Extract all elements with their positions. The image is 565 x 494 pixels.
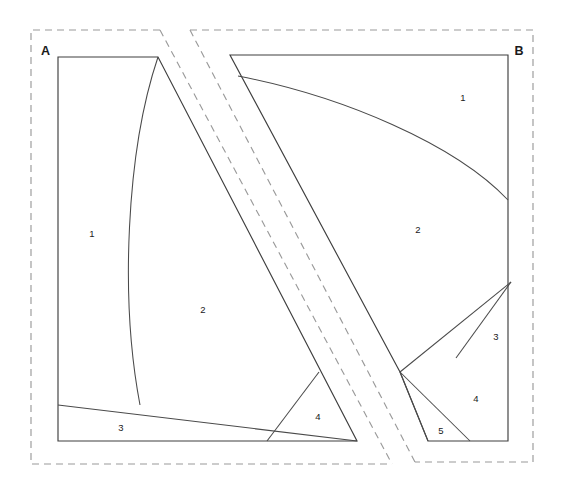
panel-a-geometry xyxy=(58,57,357,441)
panel-a-region-label-3: 3 xyxy=(118,422,123,433)
diagram-svg: A B 1 2 3 4 1 2 3 4 5 xyxy=(0,0,565,494)
panel-label-b: B xyxy=(514,44,523,58)
panel-b-region-label-2: 2 xyxy=(415,224,420,235)
panel-b-region-label-1: 1 xyxy=(460,92,465,103)
dashed-diagonal-left xyxy=(160,30,392,464)
panel-a-outline xyxy=(58,57,357,441)
panel-b-region-label-3: 3 xyxy=(493,331,498,342)
dashed-diagonal-right xyxy=(190,30,415,462)
panel-a-boundary-3-top xyxy=(58,405,357,441)
panel-a-dashed-boundary xyxy=(31,30,392,464)
panel-label-a: A xyxy=(41,44,50,58)
panel-a-region-label-1: 1 xyxy=(89,228,94,239)
panel-b-boundary-2-lower xyxy=(400,282,511,372)
panel-a-boundary-region-4 xyxy=(267,372,319,441)
panel-a-region-label-4: 4 xyxy=(315,411,320,422)
panel-b-boundary-4-5 xyxy=(400,372,470,441)
panel-a-boundary-1-2 xyxy=(128,57,158,405)
panel-b-region-label-5: 5 xyxy=(438,425,443,436)
panel-b-geometry xyxy=(230,55,511,441)
panel-b-boundary-5-bottom xyxy=(400,372,428,441)
panel-b-boundary-1-2 xyxy=(238,76,508,200)
panel-b-outline xyxy=(230,55,508,441)
figure-canvas: A B 1 2 3 4 1 2 3 4 5 xyxy=(0,0,565,494)
panel-a-region-label-2: 2 xyxy=(200,304,205,315)
panel-b-dashed-boundary xyxy=(190,30,533,462)
panel-b-region-label-4: 4 xyxy=(473,393,478,404)
